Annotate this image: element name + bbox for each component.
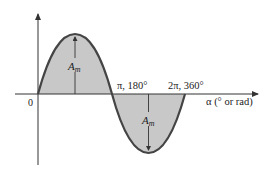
half-cycle-label: π, 180° <box>117 80 148 91</box>
x-axis-label: α (° or rad) <box>206 96 253 108</box>
full-cycle-label: 2π, 360° <box>168 80 204 91</box>
diagram-svg: Am Am 0 π, 180° 2π, 360° α (° or rad) <box>0 0 274 171</box>
sine-wave-diagram: Am Am 0 π, 180° 2π, 360° α (° or rad) <box>0 0 274 171</box>
origin-label: 0 <box>28 97 33 108</box>
